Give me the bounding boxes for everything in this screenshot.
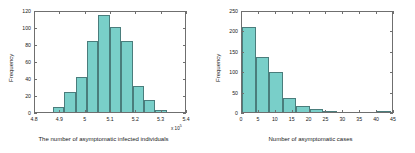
y-tick-mark [34, 96, 37, 97]
x-tick-label: 20 [306, 116, 312, 122]
y-tick-mark-right [390, 72, 393, 73]
y-tick-label: 50 [219, 90, 238, 96]
x-tick-label: 5.2 [132, 116, 139, 122]
histogram-bar [256, 57, 270, 112]
x-tick-label: 5.4 [182, 116, 189, 122]
histogram-bars-right [242, 12, 392, 112]
x-tick-mark [309, 110, 310, 113]
x-tick-mark [135, 110, 136, 113]
x-tick-mark [110, 110, 111, 113]
x-axis-exponent-left: x 105 [171, 124, 182, 131]
x-tick-mark [59, 110, 60, 113]
x-tick-mark-top [292, 11, 293, 14]
x-tick-label: 40 [373, 116, 379, 122]
y-axis-label-left: Frequency [8, 54, 14, 82]
histogram-bar [296, 106, 310, 112]
y-tick-mark [241, 11, 244, 12]
y-tick-label: 200 [219, 28, 238, 34]
y-tick-mark-right [183, 79, 186, 80]
x-axis-label-right: Number of asymptomatic cases [207, 136, 414, 142]
x-tick-label: 4.8 [30, 116, 37, 122]
chart-panel-right: 051015202530354045050100150200250 Freque… [207, 0, 414, 153]
x-tick-label: 5.3 [157, 116, 164, 122]
y-tick-mark-right [183, 11, 186, 12]
x-tick-mark-top [393, 11, 394, 14]
x-tick-label: 10 [272, 116, 278, 122]
x-tick-mark-top [376, 11, 377, 14]
x-tick-mark [393, 110, 394, 113]
exponent-base: x 10 [171, 126, 180, 131]
x-tick-label: 45 [390, 116, 396, 122]
histogram-bars-left [35, 12, 185, 112]
x-tick-label: 4.9 [56, 116, 63, 122]
x-tick-mark [292, 110, 293, 113]
y-tick-mark-right [183, 62, 186, 63]
y-tick-label: 80 [12, 42, 31, 48]
plot-area-left [34, 11, 186, 113]
x-tick-mark-top [135, 11, 136, 14]
y-tick-label: 250 [219, 8, 238, 14]
x-axis-label-left: The number of asymptomatic infected indi… [0, 136, 207, 142]
y-tick-mark [34, 62, 37, 63]
exponent-power: 5 [180, 124, 182, 128]
y-tick-mark-right [390, 52, 393, 53]
histogram-bar [64, 92, 75, 112]
histogram-bar [377, 111, 391, 112]
x-tick-label: 5 [83, 116, 86, 122]
y-tick-mark [34, 79, 37, 80]
y-tick-mark [241, 93, 244, 94]
histogram-bar [76, 77, 87, 112]
x-tick-mark-top [275, 11, 276, 14]
x-tick-mark-top [161, 11, 162, 14]
x-tick-label: 35 [356, 116, 362, 122]
histogram-bar [310, 109, 324, 112]
x-tick-label: 15 [289, 116, 295, 122]
histogram-bar [283, 98, 297, 112]
x-tick-label: 25 [323, 116, 329, 122]
y-tick-mark [241, 113, 244, 114]
x-tick-mark-top [85, 11, 86, 14]
y-tick-label: 60 [12, 59, 31, 65]
y-tick-mark-right [183, 96, 186, 97]
y-tick-mark [34, 11, 37, 12]
y-tick-mark [241, 52, 244, 53]
x-tick-mark-top [359, 11, 360, 14]
y-tick-mark [241, 31, 244, 32]
x-tick-mark-top [258, 11, 259, 14]
y-tick-label: 20 [12, 93, 31, 99]
y-tick-mark [34, 113, 37, 114]
x-tick-mark [161, 110, 162, 113]
x-tick-mark-top [342, 11, 343, 14]
y-tick-label: 100 [12, 25, 31, 31]
x-tick-mark [85, 110, 86, 113]
x-tick-mark [359, 110, 360, 113]
y-tick-mark [241, 72, 244, 73]
histogram-bar [121, 41, 132, 112]
x-tick-mark [325, 110, 326, 113]
y-tick-label: 0 [12, 110, 31, 116]
y-tick-mark-right [390, 93, 393, 94]
y-tick-mark-right [183, 45, 186, 46]
x-tick-mark [258, 110, 259, 113]
y-tick-label: 0 [219, 110, 238, 116]
x-tick-label: 0 [240, 116, 243, 122]
y-tick-mark-right [390, 113, 393, 114]
x-tick-label: 5.1 [106, 116, 113, 122]
histogram-bar [242, 27, 256, 112]
x-tick-mark [342, 110, 343, 113]
x-tick-label: 30 [339, 116, 345, 122]
histogram-bar [87, 41, 98, 112]
plot-area-right [241, 11, 393, 113]
x-tick-mark-top [325, 11, 326, 14]
x-tick-mark [275, 110, 276, 113]
figure-two-histograms: 4.84.955.15.25.35.4020406080100120 Frequ… [0, 0, 415, 153]
y-tick-label: 150 [219, 49, 238, 55]
y-tick-mark-right [390, 31, 393, 32]
chart-panel-left: 4.84.955.15.25.35.4020406080100120 Frequ… [0, 0, 207, 153]
y-tick-mark-right [390, 11, 393, 12]
y-axis-label-right: Frequency [215, 54, 221, 82]
y-tick-mark-right [183, 28, 186, 29]
y-tick-mark [34, 45, 37, 46]
x-tick-mark [186, 110, 187, 113]
histogram-bar [269, 72, 283, 112]
